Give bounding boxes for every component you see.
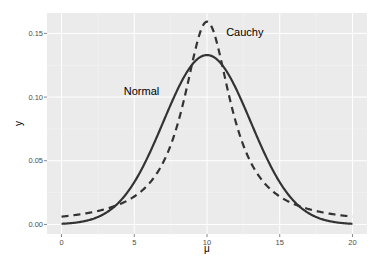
y-tick-label: 0.05 <box>28 156 43 165</box>
y-tick-label: 0.00 <box>28 220 43 229</box>
chart: NormalCauchy 05101520 0.000.050.100.15 μ… <box>0 0 384 270</box>
y-tick-label: 0.10 <box>28 93 43 102</box>
x-tick-label: 20 <box>348 238 356 247</box>
x-axis-title: μ <box>204 243 210 254</box>
y-tick-label: 0.15 <box>28 29 43 38</box>
annotation-normal: Normal <box>124 85 159 97</box>
x-tick-label: 15 <box>276 238 284 247</box>
annotation-cauchy: Cauchy <box>226 26 264 38</box>
x-tick-label: 0 <box>59 238 63 247</box>
x-tick-label: 5 <box>132 238 136 247</box>
y-axis-title: y <box>13 121 24 126</box>
y-axis: 0.000.050.100.15 <box>28 29 47 229</box>
